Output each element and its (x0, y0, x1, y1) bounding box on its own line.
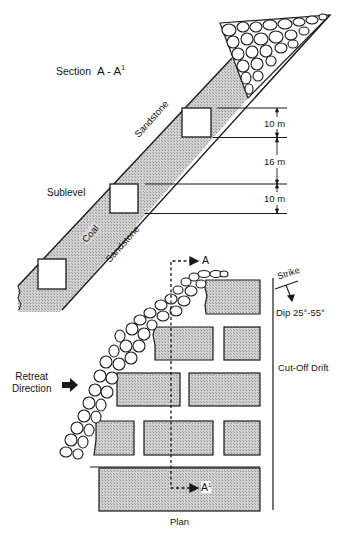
pillar-r4-c3 (224, 421, 260, 455)
cut-off-drift-label: Cut-Off Drift (278, 362, 329, 373)
pillar-r5-drift-block (99, 468, 260, 511)
section-marker-a: A (202, 254, 209, 266)
section-title: Section A - A1 (56, 64, 125, 77)
label-sublevel: Sublevel (47, 187, 85, 198)
strike-dip-symbol (275, 281, 298, 301)
section-marker-a1: A1 (201, 481, 211, 493)
pillar-r4-c1 (94, 421, 134, 455)
pillar-r4-c2 (144, 421, 213, 455)
sublevel-rooms (38, 108, 211, 289)
plan-title: Plan (170, 516, 189, 527)
pillar-r2-c1 (153, 327, 213, 360)
retreat-arrow-icon (62, 378, 78, 392)
dimension-upper-10m: 10 m (264, 118, 285, 129)
dimension-16m: 16 m (264, 156, 285, 167)
pillar-r1-c2 (205, 280, 260, 314)
dimension-lower-10m: 10 m (264, 193, 285, 204)
mining-diagram-canvas (0, 0, 352, 534)
pillar-r2-c2 (224, 327, 260, 360)
sublevel-room-lower (38, 259, 66, 289)
dip-label: Dip 25°-55° (276, 307, 325, 318)
retreat-direction-label: Retreat Direction (12, 371, 51, 395)
pillar-r3-c2 (189, 373, 260, 406)
sublevel-room-middle (110, 184, 138, 213)
sublevel-room-upper (182, 108, 211, 137)
